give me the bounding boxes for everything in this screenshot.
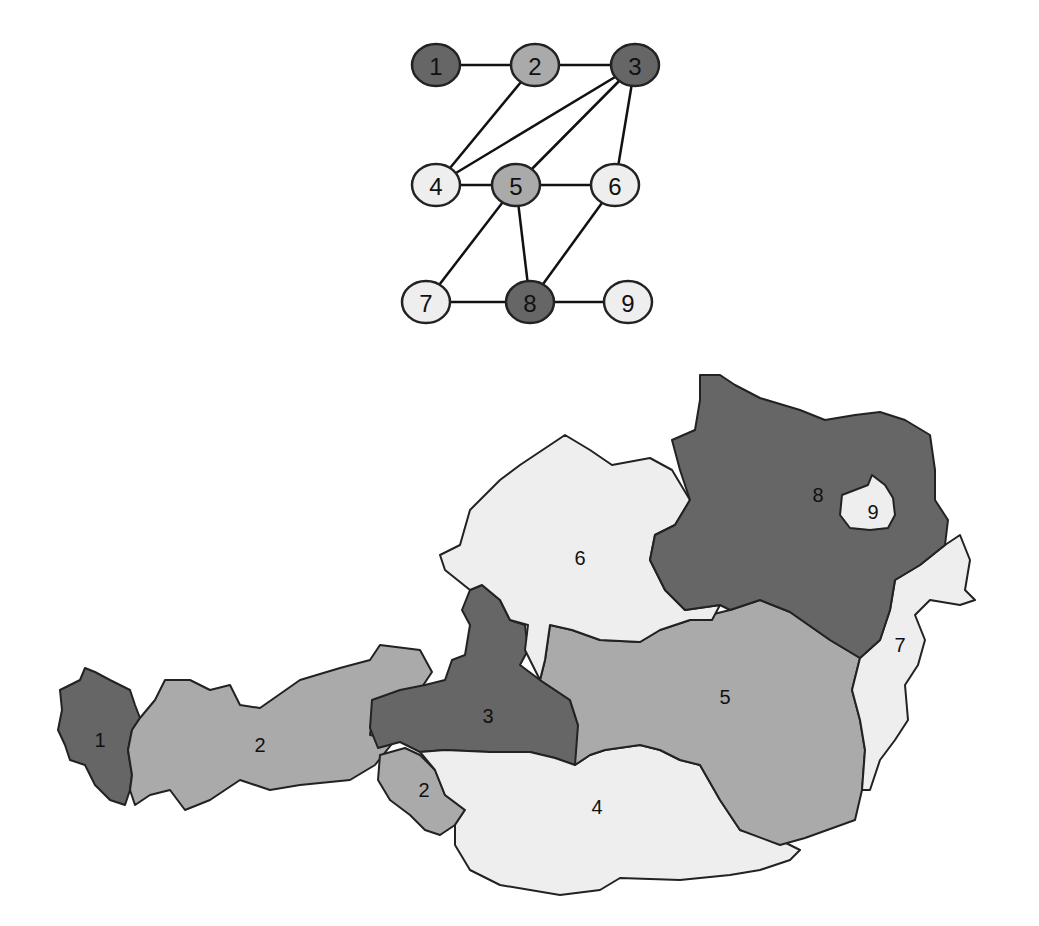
- region-label: 4: [591, 796, 602, 818]
- region-label: 6: [574, 547, 585, 569]
- region-label: 8: [812, 484, 823, 506]
- region-label: 5: [719, 686, 730, 708]
- region-label: 1: [94, 729, 105, 751]
- map-regions: 1223456789: [58, 375, 975, 895]
- region-label: 2: [418, 779, 429, 801]
- region-label: 9: [867, 501, 878, 523]
- region-label: 7: [894, 634, 905, 656]
- region-label: 2: [254, 734, 265, 756]
- region-label: 3: [482, 705, 493, 727]
- region-map: 1223456789: [0, 0, 1039, 926]
